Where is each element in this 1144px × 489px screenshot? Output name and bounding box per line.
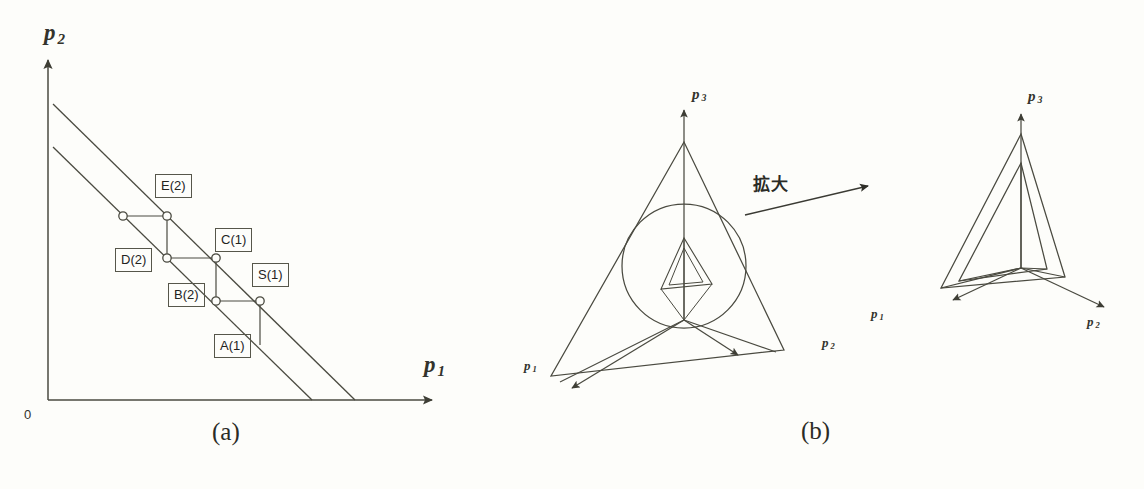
point-label-E: E(2) (155, 174, 192, 198)
point-marker (119, 212, 127, 220)
point-marker-E (163, 212, 171, 220)
point-label-C: C(1) (215, 228, 252, 252)
point-marker-C (212, 254, 220, 262)
axis-p2-left (684, 320, 738, 355)
panel-a-caption: (a) (212, 418, 240, 446)
right-axis-label-p3: p3 (1028, 88, 1042, 105)
point-label-S: S(1) (252, 263, 289, 287)
inner-link-left-a (661, 289, 684, 320)
point-marker-D (163, 254, 171, 262)
origin-to-p2-left (684, 320, 776, 352)
left-axis-label-p3: p3 (692, 86, 706, 103)
inner-triangle-left-nested (669, 248, 703, 285)
outer-triangle-left (551, 142, 784, 376)
point-marker-A (256, 297, 264, 305)
figure-vector-canvas (0, 0, 1144, 489)
right-axis-label-p2: p2 (1087, 314, 1100, 330)
x-axis-label: p1 (424, 352, 445, 380)
inner-triangle-right (959, 163, 1047, 281)
axis-p1-left (572, 320, 684, 388)
panel-b-caption: (b) (801, 417, 830, 445)
left-axis-label-p1: p1 (524, 358, 537, 374)
y-axis-label: p2 (44, 20, 65, 48)
inner-link-left-b (684, 284, 712, 320)
enlarge-annotation: 拡大 (753, 170, 789, 195)
left-axis-label-p2: p2 (822, 335, 835, 351)
point-label-D: D(2) (115, 248, 152, 272)
inner-triangle-left (661, 238, 712, 289)
axis-p2-right (1021, 268, 1104, 307)
figure-container: p2 p1 0 E(2) D(2) C(1) S(1) B(2) A(1) (a… (0, 0, 1144, 489)
point-label-A: A(1) (214, 334, 251, 358)
point-label-B: B(2) (168, 283, 205, 307)
panel-b-right-simplex (941, 114, 1104, 307)
origin-to-p1-left (560, 320, 684, 382)
panel-b-left-simplex (551, 110, 784, 388)
point-marker-B (212, 297, 220, 305)
origin-label: 0 (24, 407, 31, 422)
right-axis-label-p1: p1 (871, 306, 884, 322)
budget-line-outer (53, 104, 355, 400)
